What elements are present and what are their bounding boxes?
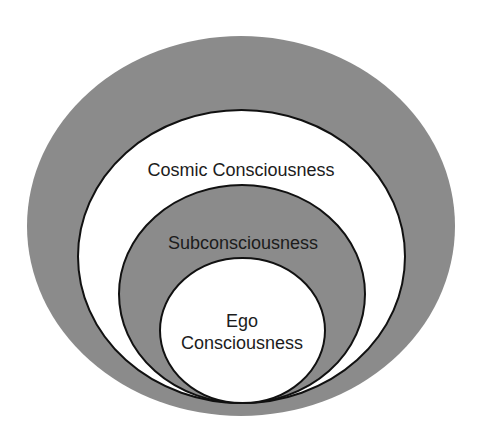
ego-label-line1: Ego	[226, 311, 258, 331]
cosmic-consciousness-label: Cosmic Consciousness	[147, 160, 334, 180]
subconsciousness-label: Subconsciousness	[168, 233, 318, 253]
diagram-canvas: Cosmic Consciousness Subconsciousness Eg…	[0, 0, 479, 432]
consciousness-diagram: Cosmic Consciousness Subconsciousness Eg…	[0, 0, 479, 432]
ego-label-line2: Consciousness	[181, 333, 303, 353]
